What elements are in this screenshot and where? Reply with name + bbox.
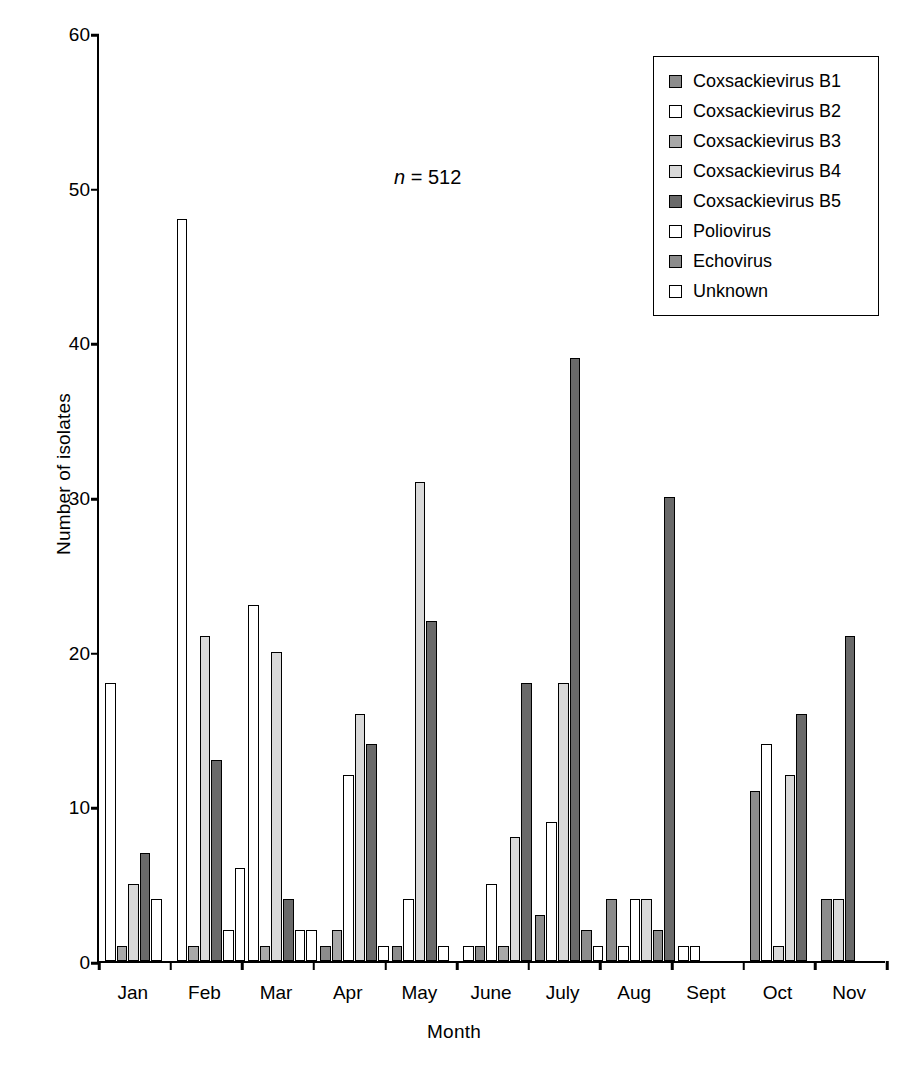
- x-group-label-aug: Aug: [617, 982, 651, 1004]
- x-group-label-mar: Mar: [260, 982, 293, 1004]
- chart-legend: Coxsackievirus B1Coxsackievirus B2Coxsac…: [653, 56, 879, 316]
- bar: [260, 946, 271, 961]
- x-group-label-oct: Oct: [763, 982, 793, 1004]
- bar: [403, 899, 414, 961]
- chart-figure: Number of isolates Month n = 512 0102030…: [0, 0, 908, 1068]
- bar: [833, 899, 844, 961]
- bar: [415, 482, 426, 961]
- x-group-label-jan: Jan: [117, 982, 148, 1004]
- x-tick-mark: [241, 961, 244, 970]
- bar: [641, 899, 652, 961]
- legend-item: Echovirus: [654, 246, 878, 276]
- y-tick-mark: [91, 34, 99, 37]
- bar: [211, 760, 222, 961]
- bar: [630, 899, 641, 961]
- bar: [475, 946, 486, 961]
- bar: [581, 930, 592, 961]
- bar: [188, 946, 199, 961]
- x-tick-mark: [98, 961, 101, 970]
- x-group-label-sept: Sept: [686, 982, 725, 1004]
- bar: [463, 946, 474, 961]
- legend-label: Unknown: [693, 282, 768, 300]
- bar: [200, 636, 211, 961]
- bar: [486, 884, 497, 961]
- legend-label: Coxsackievirus B5: [693, 192, 841, 210]
- y-tick-label: 40: [69, 333, 90, 355]
- legend-swatch-icon: [669, 285, 682, 298]
- x-group-label-apr: Apr: [333, 982, 363, 1004]
- bar: [618, 946, 629, 961]
- legend-label: Coxsackievirus B2: [693, 102, 841, 120]
- bar: [366, 744, 377, 961]
- x-tick-mark: [886, 961, 889, 970]
- legend-swatch-icon: [669, 165, 682, 178]
- x-group-label-nov: Nov: [832, 982, 866, 1004]
- bar: [521, 683, 532, 961]
- legend-item: Coxsackievirus B3: [654, 126, 878, 156]
- x-group-label-july: July: [546, 982, 580, 1004]
- bar: [653, 930, 664, 961]
- x-axis-title: Month: [0, 1021, 908, 1043]
- bar: [546, 822, 557, 961]
- legend-swatch-icon: [669, 225, 682, 238]
- y-tick-label: 30: [69, 488, 90, 510]
- legend-item: Coxsackievirus B5: [654, 186, 878, 216]
- bar: [343, 775, 354, 961]
- x-tick-mark: [384, 961, 387, 970]
- y-tick-mark: [91, 343, 99, 346]
- bar: [498, 946, 509, 961]
- bar: [140, 853, 151, 961]
- bar: [664, 497, 675, 961]
- bar: [438, 946, 449, 961]
- bar: [821, 899, 832, 961]
- y-tick-mark: [91, 188, 99, 191]
- legend-label: Poliovirus: [693, 222, 771, 240]
- bar: [392, 946, 403, 961]
- y-tick-label: 0: [79, 952, 90, 974]
- legend-swatch-icon: [669, 105, 682, 118]
- bar: [690, 946, 701, 961]
- y-tick-label: 50: [69, 179, 90, 201]
- y-tick-label: 60: [69, 24, 90, 46]
- bar: [128, 884, 139, 961]
- bar: [845, 636, 856, 961]
- x-tick-mark: [528, 961, 531, 970]
- bar: [593, 946, 604, 961]
- bar: [117, 946, 128, 961]
- bar: [773, 946, 784, 961]
- y-tick-mark: [91, 807, 99, 810]
- legend-swatch-icon: [669, 255, 682, 268]
- y-tick-label: 10: [69, 797, 90, 819]
- bar: [558, 683, 569, 961]
- x-group-label-feb: Feb: [188, 982, 221, 1004]
- bar: [761, 744, 772, 961]
- bar: [295, 930, 306, 961]
- legend-label: Echovirus: [693, 252, 772, 270]
- legend-item: Poliovirus: [654, 216, 878, 246]
- bar: [248, 605, 259, 961]
- x-tick-mark: [742, 961, 745, 970]
- legend-label: Coxsackievirus B4: [693, 162, 841, 180]
- bar: [796, 714, 807, 961]
- legend-item: Unknown: [654, 276, 878, 306]
- legend-label: Coxsackievirus B1: [693, 72, 841, 90]
- legend-item: Coxsackievirus B1: [654, 66, 878, 96]
- legend-swatch-icon: [669, 135, 682, 148]
- legend-swatch-icon: [669, 195, 682, 208]
- bar: [510, 837, 521, 961]
- bar: [570, 358, 581, 961]
- bar: [355, 714, 366, 961]
- bar: [306, 930, 317, 961]
- bar: [426, 621, 437, 961]
- y-tick-mark: [91, 498, 99, 501]
- bar: [378, 946, 389, 961]
- bar: [177, 219, 188, 961]
- legend-swatch-icon: [669, 75, 682, 88]
- legend-item: Coxsackievirus B4: [654, 156, 878, 186]
- bar: [320, 946, 331, 961]
- bar: [535, 915, 546, 961]
- bar: [678, 946, 689, 961]
- bar: [105, 683, 116, 961]
- legend-label: Coxsackievirus B3: [693, 132, 841, 150]
- bar: [750, 791, 761, 961]
